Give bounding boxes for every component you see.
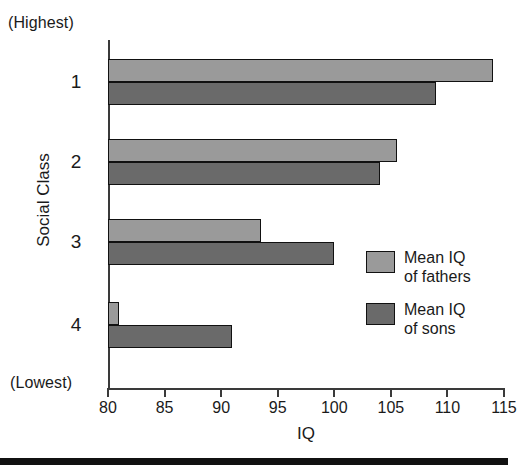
legend-item-fathers: Mean IQ of fathers xyxy=(366,248,471,286)
y-axis-title: Social Class xyxy=(34,120,54,280)
legend-swatch-fathers-icon xyxy=(366,251,395,273)
legend-label-fathers-line2: of fathers xyxy=(404,268,471,285)
bar-sons-class-3 xyxy=(108,242,334,265)
x-tick-label-85: 85 xyxy=(143,399,187,417)
x-tick-label-115: 115 xyxy=(482,399,521,417)
category-label-4: 4 xyxy=(64,314,88,336)
category-label-2: 2 xyxy=(64,151,88,173)
legend-label-sons: Mean IQ of sons xyxy=(404,300,465,338)
x-tick-mark-85 xyxy=(164,388,166,397)
legend-label-fathers: Mean IQ of fathers xyxy=(404,248,471,286)
chart-legend: Mean IQ of fathers Mean IQ of sons xyxy=(366,248,471,352)
x-tick-mark-115 xyxy=(503,388,505,397)
x-axis-title: IQ xyxy=(108,424,504,444)
x-tick-mark-90 xyxy=(220,388,222,397)
x-tick-mark-95 xyxy=(277,388,279,397)
x-tick-mark-80 xyxy=(107,388,109,397)
legend-item-sons: Mean IQ of sons xyxy=(366,300,471,338)
page-edge-rule xyxy=(0,458,508,465)
bar-fathers-class-4 xyxy=(108,302,119,325)
category-label-1: 1 xyxy=(64,71,88,93)
x-axis-line xyxy=(108,388,504,390)
x-tick-label-110: 110 xyxy=(425,399,469,417)
x-tick-label-105: 105 xyxy=(369,399,413,417)
bar-fathers-class-2 xyxy=(108,139,397,162)
legend-swatch-sons-icon xyxy=(366,303,395,325)
category-label-3: 3 xyxy=(64,231,88,253)
legend-label-sons-line1: Mean IQ xyxy=(404,301,465,318)
x-tick-label-95: 95 xyxy=(256,399,300,417)
x-tick-label-80: 80 xyxy=(86,399,130,417)
x-tick-mark-100 xyxy=(333,388,335,397)
bar-sons-class-2 xyxy=(108,162,380,185)
legend-label-fathers-line1: Mean IQ xyxy=(404,249,465,266)
x-tick-mark-110 xyxy=(446,388,448,397)
x-tick-label-100: 100 xyxy=(312,399,356,417)
y-axis-highest-note: (Highest) xyxy=(8,14,74,32)
bar-fathers-class-1 xyxy=(108,59,493,82)
legend-label-sons-line2: of sons xyxy=(404,320,456,337)
bar-fathers-class-3 xyxy=(108,219,261,242)
bar-sons-class-4 xyxy=(108,325,232,348)
x-tick-label-90: 90 xyxy=(199,399,243,417)
bar-sons-class-1 xyxy=(108,82,436,105)
x-tick-mark-105 xyxy=(390,388,392,397)
y-axis-lowest-note: (Lowest) xyxy=(10,374,72,392)
